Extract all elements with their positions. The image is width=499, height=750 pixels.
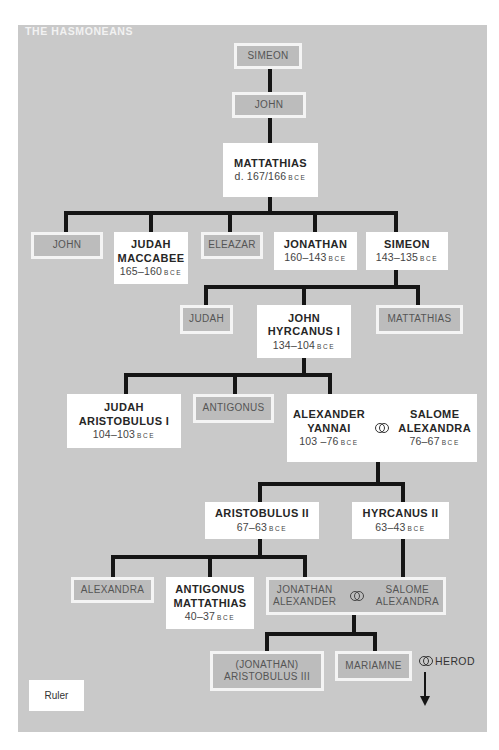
node-name: JUDAH — [189, 313, 224, 325]
connector-line — [265, 632, 269, 651]
node-name: JOHN — [288, 312, 320, 325]
node-name: HYRCANUS II — [363, 507, 439, 520]
connector-line — [268, 117, 272, 143]
connector-line — [64, 211, 68, 232]
node-eleazar: ELEAZAR — [201, 232, 263, 259]
node-aristobulus-iii: (JONATHAN) ARISTOBULUS III — [210, 651, 324, 691]
connector-line — [111, 555, 115, 577]
connector-line — [204, 285, 208, 305]
node-name: SALOME — [410, 408, 459, 421]
node-name: ALEXANDRA — [81, 584, 144, 596]
node-date: 134–104BCE — [273, 339, 335, 352]
node-name: ANTIGONUS — [175, 583, 245, 596]
marriage-rings-icon — [419, 656, 432, 666]
node-mariamne: MARIAMNE — [335, 651, 412, 681]
node-name: ARISTOBULUS I — [79, 415, 170, 428]
node-name: SALOME — [386, 584, 429, 596]
node-jonathan-alexander: JONATHAN ALEXANDER — [273, 584, 336, 608]
connector-line — [313, 211, 317, 232]
node-name: MARIAMNE — [345, 660, 401, 672]
connector-line — [204, 285, 420, 289]
node-hyrcanus-ii: HYRCANUS II 63–43BCE — [352, 502, 449, 539]
legend-ruler: Ruler — [29, 680, 84, 711]
connector-line — [124, 373, 128, 394]
node-name: ALEXANDRA — [398, 422, 471, 435]
node-aristobulus-ii: ARISTOBULUS II 67–63BCE — [205, 502, 319, 539]
node-name: JONATHAN — [284, 238, 348, 251]
node-john: JOHN — [31, 232, 103, 259]
node-salome-alexandra-2: SALOME ALEXANDRA — [376, 584, 439, 608]
connector-line — [416, 285, 420, 305]
connector-line — [233, 373, 237, 394]
node-name: ARISTOBULUS III — [224, 671, 310, 683]
node-date: 104–103BCE — [93, 428, 155, 441]
node-name: JOHN — [53, 239, 81, 251]
node-name: JOHN — [255, 99, 283, 111]
connector-line — [208, 555, 212, 577]
connector-line — [376, 462, 380, 484]
node-mattathias: MATTATHIAS d. 167/166BCE — [223, 143, 318, 197]
node-name: ALEXANDER — [293, 408, 365, 421]
connector-line — [258, 482, 262, 502]
node-jonathan: JONATHAN 160–143BCE — [274, 232, 357, 270]
node-name: YANNAI — [307, 422, 351, 435]
node-date: 40–37BCE — [185, 610, 235, 623]
node-antigonus: ANTIGONUS — [193, 394, 274, 423]
node-name: JUDAH — [104, 401, 144, 414]
node-alexander-yannai: ALEXANDER YANNAI 103 –76BCE — [293, 408, 365, 448]
legend-label: Ruler — [45, 690, 69, 701]
connector-line — [328, 373, 332, 394]
node-judah-maccabee: JUDAH MACCABEE 165–160BCE — [114, 232, 188, 284]
node-judah: JUDAH — [180, 305, 233, 334]
node-herod: HEROD — [419, 655, 475, 667]
node-john-ancestor: JOHN — [232, 92, 306, 118]
diagram-title: THE HASMONEANS — [25, 25, 133, 37]
node-name: ALEXANDRA — [376, 596, 439, 608]
node-name: HYRCANUS I — [268, 325, 340, 338]
node-date: 76–67BCE — [409, 435, 459, 448]
node-name: (JONATHAN) — [236, 659, 299, 671]
connector-line — [258, 482, 405, 486]
connector-line — [302, 285, 306, 305]
connector-line — [373, 632, 377, 651]
arrow-down-icon — [420, 696, 430, 706]
connector-line — [401, 538, 405, 577]
node-name: HEROD — [435, 655, 475, 667]
connector-line — [394, 211, 398, 232]
node-name: JUDAH — [131, 238, 171, 251]
node-salome-alexandra: SALOME ALEXANDRA 76–67BCE — [398, 408, 471, 448]
connector-line — [303, 555, 307, 577]
node-date: 67–63BCE — [237, 521, 287, 534]
node-antigonus-mattathias: ANTIGONUS MATTATHIAS 40–37BCE — [166, 577, 254, 629]
node-date: 143–135BCE — [376, 251, 438, 264]
node-date: 103 –76BCE — [299, 435, 359, 448]
connector-line — [401, 482, 405, 502]
node-name: ELEAZAR — [208, 239, 256, 251]
node-mattathias-son: MATTATHIAS — [376, 305, 463, 334]
node-alexander-yannai-salome-alexandra: ALEXANDER YANNAI 103 –76BCE SALOME ALEXA… — [287, 394, 477, 462]
node-date: 165–160BCE — [120, 265, 182, 278]
node-name: JONATHAN — [277, 584, 333, 596]
node-john-hyrcanus-i: JOHN HYRCANUS I 134–104BCE — [257, 305, 351, 358]
marriage-rings-icon — [375, 423, 388, 433]
node-name: MACCABEE — [118, 252, 185, 265]
connector-line — [124, 373, 332, 377]
node-simeon: SIMEON 143–135BCE — [366, 232, 448, 270]
marriage-rings-icon — [350, 591, 363, 601]
node-name: ALEXANDER — [273, 596, 336, 608]
arrow-down-icon — [424, 672, 426, 698]
node-date: 160–143BCE — [284, 251, 346, 264]
node-simeon-ancestor: SIMEON — [234, 43, 302, 69]
node-name: MATTATHIAS — [234, 157, 307, 170]
node-name: SIMEON — [247, 50, 288, 62]
node-date: d. 167/166BCE — [235, 170, 307, 183]
node-name: SIMEON — [384, 238, 430, 251]
node-name: ARISTOBULUS II — [215, 507, 309, 520]
node-name: MATTATHIAS — [387, 313, 451, 325]
connector-line — [149, 211, 153, 232]
node-name: MATTATHIAS — [173, 597, 246, 610]
connector-line — [352, 614, 356, 634]
node-name: ANTIGONUS — [202, 402, 264, 414]
node-alexandra: ALEXANDRA — [71, 577, 154, 603]
connector-line — [265, 632, 377, 636]
